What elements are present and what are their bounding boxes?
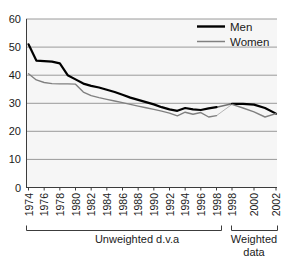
- y-tick-label-30: 30: [9, 97, 21, 109]
- x-tick-label-1986-unweighted: 1986: [117, 193, 129, 217]
- y-tick-label-40: 40: [9, 69, 21, 81]
- bracket-weighted: [232, 226, 278, 231]
- y-tick-label-0: 0: [15, 182, 21, 194]
- x-tick-label-2000-weighted: 2000: [248, 193, 260, 217]
- y-axis-labels: 0102030405060: [9, 13, 21, 194]
- x-tick-label-1980-unweighted: 1980: [70, 193, 82, 217]
- x-tick-label-1984-unweighted: 1984: [101, 193, 113, 217]
- weighted-group-label-line1: Weighted: [231, 233, 277, 245]
- y-tick-label-50: 50: [9, 41, 21, 53]
- x-tick-label-1998-unweighted: 1998: [211, 193, 223, 217]
- x-tick-label-2002-weighted: 2002: [270, 193, 282, 217]
- y-tick-label-10: 10: [9, 153, 21, 165]
- x-tick-label-1990-unweighted: 1990: [148, 193, 160, 217]
- x-tick-label-1996-unweighted: 1996: [195, 193, 207, 217]
- y-tick-label-20: 20: [9, 125, 21, 137]
- unweighted-group-label: Unweighted d.v.a: [95, 233, 180, 245]
- x-tick-label-1974-unweighted: 1974: [23, 193, 35, 217]
- x-tick-label-1982-unweighted: 1982: [85, 193, 97, 217]
- bracket-unweighted: [27, 226, 222, 231]
- legend-label-women: Women: [230, 36, 269, 48]
- x-tick-label-1978-unweighted: 1978: [54, 193, 66, 217]
- y-tick-label-60: 60: [9, 13, 21, 25]
- x-tick-label-1992-unweighted: 1992: [164, 193, 176, 217]
- chart-container: 0102030405060 19741976197819801982198419…: [0, 0, 287, 264]
- line-chart: 0102030405060 19741976197819801982198419…: [0, 0, 287, 264]
- x-tick-label-1976-unweighted: 1976: [38, 193, 50, 217]
- weighted-group-label-line2: data: [243, 246, 265, 258]
- x-tick-label-1998-weighted: 1998: [226, 193, 238, 217]
- x-axis-year-labels: 1974197619781980198219841986198819901992…: [23, 193, 283, 217]
- x-tick-label-1988-unweighted: 1988: [132, 193, 144, 217]
- group-brackets: [27, 226, 278, 231]
- x-tick-label-1994-unweighted: 1994: [179, 193, 191, 217]
- legend-label-men: Men: [230, 21, 252, 33]
